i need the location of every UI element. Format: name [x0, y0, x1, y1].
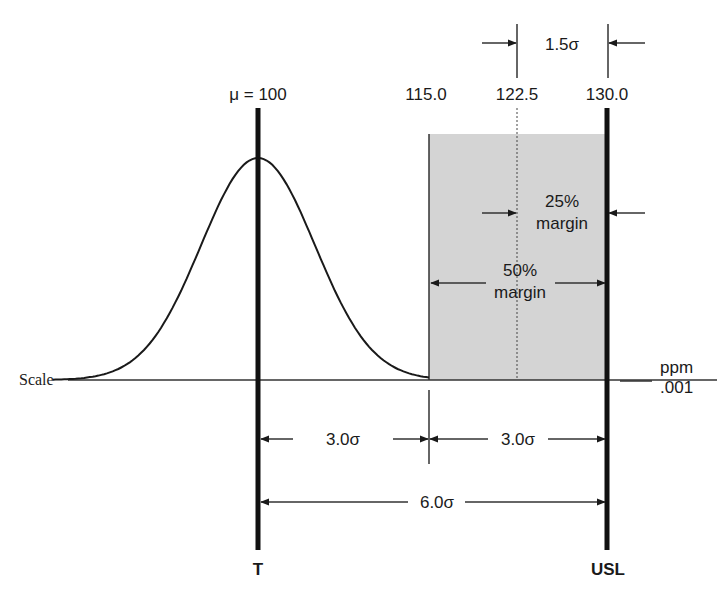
ppm-label-line2: .001 — [660, 378, 693, 397]
margin-50-label-line2: margin — [494, 283, 546, 302]
ppm-label-line1: ppm — [660, 358, 693, 377]
midpoint-label: 122.5 — [496, 85, 539, 104]
margin-50-label-line1: 50% — [503, 261, 537, 280]
scale-label: Scale — [19, 371, 54, 388]
lower-edge-label: 115.0 — [405, 85, 446, 104]
sigma-margin-diagram: μ = 100 115.0 122.5 130.0 1.5σ 25% margi… — [0, 0, 717, 590]
usl-label: USL — [591, 560, 625, 579]
sigma-right-label: 3.0σ — [501, 430, 536, 449]
shift-label: 1.5σ — [545, 35, 580, 54]
normal-distribution-curve — [53, 158, 429, 380]
margin-25-label-line1: 25% — [545, 192, 579, 211]
margin-25-label-line2: margin — [536, 214, 588, 233]
usl-value-label: 130.0 — [586, 85, 629, 104]
mean-label: μ = 100 — [229, 85, 287, 104]
sigma-left-label: 3.0σ — [326, 430, 361, 449]
sigma-total-label: 6.0σ — [420, 493, 455, 512]
target-label: T — [253, 560, 264, 579]
